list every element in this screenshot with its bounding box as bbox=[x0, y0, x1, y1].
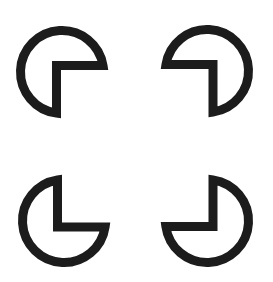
illusory-square-figure bbox=[0, 0, 273, 282]
